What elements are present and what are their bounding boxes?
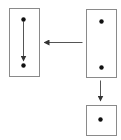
left-bottom-dot [21, 63, 25, 67]
right-bottom-dot [99, 65, 103, 69]
bottom-dot [98, 117, 102, 121]
diagram-canvas [0, 0, 121, 140]
arrows-layer [24, 22, 101, 101]
left-top-dot [21, 17, 25, 21]
right-top-dot [99, 19, 103, 23]
boxes-layer [10, 9, 117, 136]
dots-layer [21, 17, 103, 121]
